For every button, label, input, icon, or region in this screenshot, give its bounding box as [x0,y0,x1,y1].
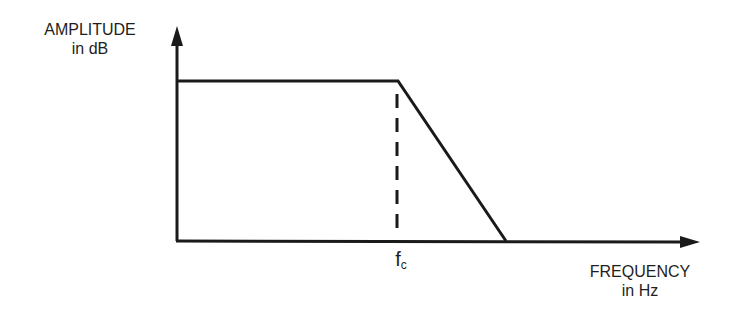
x-axis [176,241,686,242]
cutoff-label-subscript: c [401,258,407,272]
y-axis-arrowhead [171,26,183,46]
cutoff-frequency-label: fc [386,250,416,275]
x-axis-label: FREQUENCY in Hz [555,262,725,300]
response-curve [177,81,506,241]
y-axis-label-line2: in dB [20,39,160,58]
x-axis-arrowhead [680,236,700,248]
y-axis-label-line1: AMPLITUDE [20,20,160,39]
x-axis-label-line1: FREQUENCY [555,262,725,281]
y-axis-label: AMPLITUDE in dB [20,20,160,58]
x-axis-label-line2: in Hz [555,281,725,300]
